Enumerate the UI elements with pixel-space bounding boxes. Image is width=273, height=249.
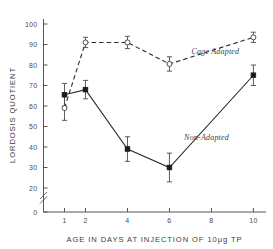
y-tick-label: 20 bbox=[29, 185, 37, 192]
x-axis-ticks: 1246810 bbox=[62, 208, 257, 224]
series-line-non-adapted bbox=[64, 75, 253, 167]
data-point-marker bbox=[251, 35, 256, 40]
chart-figure: 02030405060708090100 1246810 Cage Adapte… bbox=[0, 0, 273, 249]
data-point-marker bbox=[62, 92, 67, 97]
data-point-marker bbox=[167, 61, 172, 66]
lordosis-quotient-line-chart: 02030405060708090100 1246810 Cage Adapte… bbox=[0, 0, 273, 249]
data-point-marker bbox=[125, 147, 130, 152]
y-tick-label: 30 bbox=[29, 164, 37, 171]
y-tick-label: 80 bbox=[29, 62, 37, 69]
series-annotation-cage-adapted: Cage Adapted bbox=[192, 47, 241, 56]
data-point-marker bbox=[251, 73, 256, 78]
data-point-marker bbox=[83, 87, 88, 92]
y-tick-label: 70 bbox=[29, 82, 37, 89]
y-tick-label: 100 bbox=[25, 21, 38, 28]
y-tick-label: 40 bbox=[29, 144, 37, 151]
data-point-marker bbox=[125, 40, 130, 45]
y-axis-title: LORDOSIS QUOTIENT bbox=[8, 67, 17, 163]
x-tick-label: 6 bbox=[167, 217, 171, 224]
series-annotation-non-adapted: Non-Adapted bbox=[183, 133, 230, 142]
data-point-marker bbox=[167, 165, 172, 170]
data-points-non-adapted bbox=[62, 73, 256, 170]
x-axis-title: AGE IN DAYS AT INJECTION OF 10μg TP bbox=[67, 235, 243, 244]
x-tick-label: 8 bbox=[209, 217, 213, 224]
y-tick-label: 0 bbox=[33, 209, 37, 216]
error-bars-non-adapted bbox=[62, 65, 256, 182]
x-tick-label: 2 bbox=[83, 217, 87, 224]
data-point-marker bbox=[62, 106, 67, 111]
y-tick-label: 50 bbox=[29, 123, 37, 130]
x-tick-label: 1 bbox=[62, 217, 66, 224]
y-tick-label: 90 bbox=[29, 41, 37, 48]
y-axis-ticks: 02030405060708090100 bbox=[25, 21, 48, 216]
x-tick-label: 4 bbox=[125, 217, 129, 224]
data-point-marker bbox=[83, 40, 88, 45]
x-tick-label: 10 bbox=[249, 217, 257, 224]
y-tick-label: 60 bbox=[29, 103, 37, 110]
